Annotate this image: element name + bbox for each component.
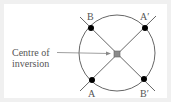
caption-line-2: inversion bbox=[12, 58, 49, 69]
centre-of-inversion-marker bbox=[114, 51, 120, 57]
inversion-diagram: B A′ A B′ Centre of inversion bbox=[0, 0, 171, 102]
label-b-prime: B′ bbox=[140, 88, 149, 99]
label-b: B bbox=[87, 11, 94, 22]
pointer-arrow-line bbox=[57, 53, 109, 54]
label-a-prime: A′ bbox=[140, 11, 149, 22]
pointer-arrowhead-icon bbox=[106, 52, 111, 56]
point-a-prime bbox=[142, 25, 148, 31]
point-b-prime bbox=[141, 76, 147, 82]
label-a: A bbox=[88, 88, 96, 99]
point-a bbox=[89, 77, 95, 83]
caption-line-1: Centre of bbox=[12, 47, 50, 58]
point-b bbox=[88, 25, 94, 31]
